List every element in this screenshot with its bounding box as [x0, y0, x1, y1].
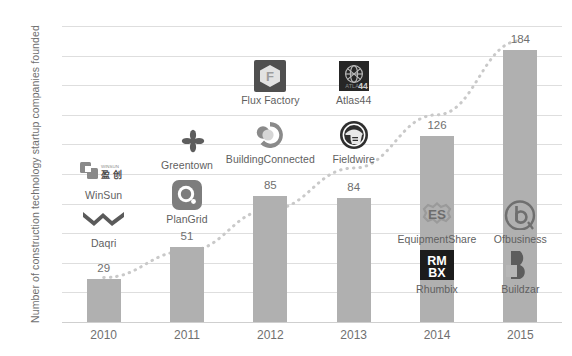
logo-label: WinSun [58, 189, 150, 201]
bar-2011[interactable] [170, 247, 204, 322]
logo-label: Fieldwire [308, 153, 400, 165]
logo-label: EquipmentShare [391, 233, 483, 245]
logo-annotation-daqri: Daqri [58, 202, 150, 249]
x-axis-tick-label-2014: 2014 [402, 328, 472, 342]
logo-annotation-plangrid: PlanGrid [141, 178, 233, 225]
bar-value-2014: 126 [407, 119, 467, 131]
winsun-logo: WINSUN 盈 创 [58, 154, 150, 188]
x-axis-tick-label-2011: 2011 [152, 328, 222, 342]
logo-annotation-equipmentshare: ES EquipmentShare [391, 198, 483, 245]
logo-label: Daqri [58, 237, 150, 249]
logo-label: Atlas44 [308, 94, 400, 106]
logo-annotation-rhumbix: RM BX Rhumbix [391, 248, 483, 295]
gridline [62, 26, 562, 27]
logo-label: Ofbusiness [474, 233, 566, 245]
logo-annotation-ofbusiness: Ofbusiness [474, 198, 566, 245]
logo-label: Buildzar [474, 283, 566, 295]
svg-text:WINSUN: WINSUN [101, 164, 119, 169]
equipmentshare-logo: ES [391, 198, 483, 232]
x-axis-tick-label-2010: 2010 [69, 328, 139, 342]
logo-annotation-flux-factory: F Flux Factory [224, 59, 316, 106]
logo-label: Greentown [141, 159, 233, 171]
logo-annotation-atlas44: ATLAS 44 Atlas44 [308, 59, 400, 106]
rhumbix-logo: RM BX [391, 248, 483, 282]
x-axis-tick-label-2012: 2012 [235, 328, 305, 342]
logo-label: Rhumbix [391, 283, 483, 295]
gridline [62, 115, 562, 116]
bar-value-2013: 84 [324, 181, 384, 193]
bar-2010[interactable] [87, 279, 121, 322]
svg-text:BX: BX [428, 266, 446, 280]
logo-label: PlanGrid [141, 213, 233, 225]
ofbusiness-logo [474, 198, 566, 232]
x-axis-tick-label-2015: 2015 [485, 328, 555, 342]
fieldwire-logo [308, 118, 400, 152]
y-axis-title: Number of construction technology startu… [29, 19, 41, 329]
svg-text:盈 创: 盈 创 [100, 169, 122, 180]
bar-chart: Number of construction technology startu… [0, 0, 572, 356]
bar-value-2015: 184 [490, 33, 550, 45]
flux-factory-logo: F [224, 59, 316, 93]
logo-annotation-greentown: Greentown [141, 124, 233, 171]
greentown-logo [141, 124, 233, 158]
plangrid-logo [141, 178, 233, 212]
logo-label: Flux Factory [224, 94, 316, 106]
daqri-logo [58, 202, 150, 236]
svg-text:F: F [266, 69, 274, 84]
bar-2013[interactable] [337, 198, 371, 322]
logo-label: BuildingConnected [224, 153, 316, 165]
logo-annotation-fieldwire: Fieldwire [308, 118, 400, 165]
logo-annotation-buildzar: Buildzar [474, 248, 566, 295]
buildingconnected-logo [224, 118, 316, 152]
bar-2012[interactable] [253, 196, 287, 322]
bar-value-2011: 51 [157, 230, 217, 242]
svg-text:44: 44 [358, 81, 368, 91]
logo-annotation-winsun: WINSUN 盈 创 WinSun [58, 154, 150, 201]
plot-area: 020406080100120140160180200 295185841261… [62, 26, 562, 322]
gridline [62, 322, 562, 323]
bar-value-2010: 29 [74, 262, 134, 274]
gridline [62, 56, 562, 57]
x-axis-tick-label-2013: 2013 [319, 328, 389, 342]
bar-value-2012: 85 [240, 179, 300, 191]
svg-text:ES: ES [428, 207, 446, 222]
logo-annotation-buildingconnected: BuildingConnected [224, 118, 316, 165]
buildzar-logo [474, 248, 566, 282]
atlas44-logo: ATLAS 44 [308, 59, 400, 93]
